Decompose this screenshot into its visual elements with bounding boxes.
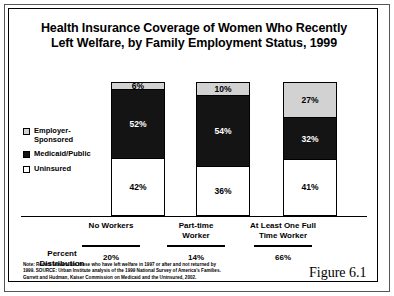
stacked-bar: 27% 32% 41% [283, 82, 337, 216]
page-title: Health Insurance Coverage of Women Who R… [9, 21, 379, 51]
distribution-value-part-time: 14% [148, 253, 244, 262]
x-axis-label-full-time-worker: At Least One Full Time Worker [235, 221, 331, 240]
bar-group-part-time-worker: 10% 54% 36% [196, 82, 250, 216]
x-axis-label-part-time-worker: Part-time Worker [148, 221, 244, 240]
bar-segment-uninsured: 41% [284, 160, 336, 214]
cat2-line1: At Least One Full [250, 221, 316, 230]
figure-caption: Figure 6.1 [309, 265, 389, 281]
distribution-rule [167, 245, 225, 247]
bar-segment-employer: 27% [284, 83, 336, 119]
footnote: Note: Recent leavers are those who have … [23, 262, 273, 281]
stacked-bar: 10% 54% 36% [196, 82, 250, 216]
bar-segment-uninsured: 42% [112, 159, 164, 214]
bar-segment-employer: 6% [112, 83, 164, 91]
bar-segment-medicaid: 32% [284, 118, 336, 160]
bar-segment-medicaid: 52% [112, 90, 164, 159]
axis-baseline [21, 216, 367, 218]
footnote-divider [19, 281, 369, 282]
cat0-line1: No Workers [89, 221, 134, 230]
distribution-value-no-workers: 20% [63, 253, 159, 262]
stacked-bar: 6% 52% 42% [111, 82, 165, 216]
title-line-1: Health Insurance Coverage of Women Who R… [9, 21, 379, 36]
bar-segment-employer: 10% [197, 83, 249, 96]
x-axis-label-no-workers: No Workers [63, 221, 159, 231]
cat1-line1: Part-time [179, 221, 214, 230]
title-line-2: Left Welfare, by Family Employment Statu… [9, 36, 379, 51]
distribution-value-full-time: 66% [235, 253, 331, 262]
bar-group-full-time-worker: 27% 32% 41% [283, 82, 337, 216]
figure-frame: Health Insurance Coverage of Women Who R… [8, 8, 378, 282]
cat2-line2: Time Worker [259, 231, 307, 240]
bar-segment-uninsured: 36% [197, 167, 249, 215]
bar-group-no-workers: 6% 52% 42% [111, 82, 165, 216]
cat1-line2: Worker [182, 231, 209, 240]
bar-segment-medicaid: 54% [197, 96, 249, 167]
distribution-rule [82, 245, 140, 247]
plot-area: 6% 52% 42% 10% 54% 36% 27% 32% 41% [21, 69, 367, 217]
distribution-rule [254, 245, 312, 247]
